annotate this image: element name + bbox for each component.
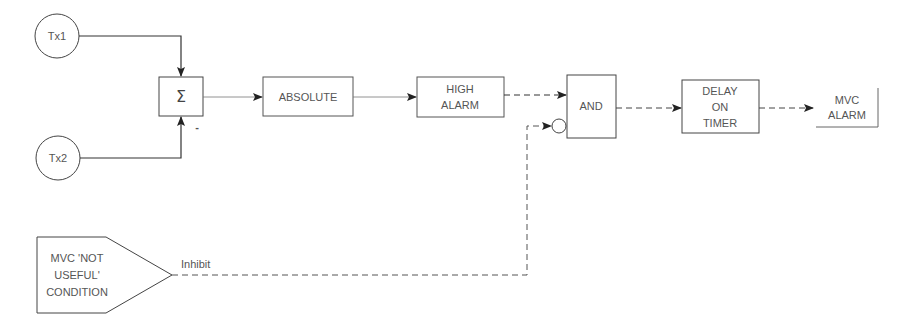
mvc-alarm-logic-diagram: Tx1 Tx2 Σ - ABSOLUTE HIGH ALARM AND DELA…	[0, 0, 909, 335]
and-gate-label: AND	[579, 100, 602, 112]
inhibit-signal-label: Inhibit	[181, 258, 210, 270]
tx2-to-summer-connector	[80, 117, 181, 158]
delay-timer-label-line3: TIMER	[703, 117, 737, 129]
sigma-icon: Σ	[176, 87, 186, 106]
high-alarm-label-line1: HIGH	[446, 83, 474, 95]
tx1-input-node: Tx1	[35, 14, 79, 58]
and-gate-block: AND	[567, 75, 616, 138]
mvc-alarm-label-line2: ALARM	[828, 109, 866, 121]
absolute-block: ABSOLUTE	[263, 77, 353, 116]
tx2-label: Tx2	[49, 152, 67, 164]
tx1-label: Tx1	[48, 30, 66, 42]
high-alarm-block: HIGH ALARM	[417, 77, 504, 117]
inhibit-to-and-connector	[172, 126, 551, 275]
minus-sign-label: -	[195, 121, 199, 133]
delay-timer-label-line1: DELAY	[702, 85, 738, 97]
absolute-label: ABSOLUTE	[279, 91, 338, 103]
tx1-to-summer-connector	[79, 36, 181, 76]
high-alarm-label-line2: ALARM	[441, 99, 479, 111]
mvc-alarm-label-line1: MVC	[835, 94, 860, 106]
mvc-alarm-output: MVC ALARM	[816, 88, 878, 127]
condition-label-line3: CONDITION	[46, 286, 108, 298]
condition-label-line1: MVC 'NOT	[51, 252, 104, 264]
delay-on-timer-block: DELAY ON TIMER	[682, 80, 759, 133]
delay-timer-label-line2: ON	[712, 101, 729, 113]
condition-label-line2: USEFUL'	[54, 269, 100, 281]
tx2-input-node: Tx2	[36, 136, 80, 180]
mvc-not-useful-condition-block: MVC 'NOT USEFUL' CONDITION	[37, 237, 172, 313]
inversion-bubble-icon	[552, 119, 566, 133]
summation-block: Σ	[159, 77, 203, 116]
